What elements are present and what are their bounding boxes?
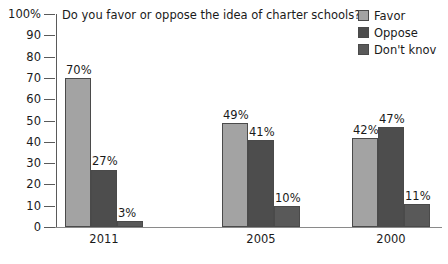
bar-value-label: 27% [92, 155, 118, 167]
bar-value-label: 41% [249, 126, 275, 138]
bar-value-label: 47% [379, 113, 405, 125]
bar [222, 123, 248, 227]
bar [378, 127, 404, 227]
legend-item-oppose: Oppose [358, 24, 448, 41]
bar-value-label: 10% [275, 192, 301, 204]
y-axis-label: 20 [0, 178, 41, 190]
x-axis-label: 2005 [212, 232, 310, 246]
y-axis-label: 70 [0, 72, 41, 84]
bar-chart: Do you favor or oppose the idea of chart… [0, 0, 448, 264]
legend-label-oppose: Oppose [374, 26, 418, 40]
x-axis-label: 2011 [55, 232, 153, 246]
bar [65, 78, 91, 227]
y-axis-tick [44, 227, 55, 228]
y-axis-label: 10 [0, 200, 41, 212]
bar-value-label: 49% [223, 109, 249, 121]
y-axis-label: 90 [0, 29, 41, 41]
y-axis-tick [44, 35, 55, 36]
y-axis-label: 80 [0, 51, 41, 63]
y-axis-tick [44, 206, 55, 207]
legend-swatch-dont-know [358, 44, 369, 55]
bar [117, 221, 143, 227]
y-axis-tick [44, 163, 55, 164]
y-axis-tick [44, 14, 55, 15]
y-axis-label: 40 [0, 136, 41, 148]
y-axis-label: 30 [0, 157, 41, 169]
x-axis-label: 2000 [342, 232, 440, 246]
y-axis-tick [44, 99, 55, 100]
bar-value-label: 70% [66, 64, 92, 76]
legend-item-dont-know: Don't knov [358, 41, 448, 58]
bar [352, 138, 378, 227]
legend-swatch-favor [358, 10, 369, 21]
x-axis-line [44, 227, 442, 228]
bar [248, 140, 274, 227]
y-axis-label: 0 [0, 221, 41, 233]
y-axis-line [56, 14, 57, 228]
chart-legend: Favor Oppose Don't knov [358, 7, 448, 58]
bar-value-label: 11% [405, 190, 431, 202]
y-axis-tick [44, 184, 55, 185]
legend-label-favor: Favor [374, 9, 405, 23]
legend-swatch-oppose [358, 27, 369, 38]
y-axis-tick [44, 142, 55, 143]
bar [91, 170, 117, 228]
y-axis-tick [44, 78, 55, 79]
chart-title: Do you favor or oppose the idea of chart… [62, 8, 360, 22]
bar [274, 206, 300, 227]
legend-item-favor: Favor [358, 7, 448, 24]
bar-value-label: 42% [353, 124, 379, 136]
bar-value-label: 3% [118, 207, 136, 219]
y-axis-label: 100% [0, 8, 41, 20]
y-axis-tick [44, 57, 55, 58]
y-axis-label: 50 [0, 115, 41, 127]
y-axis-label: 60 [0, 93, 41, 105]
y-axis-tick [44, 121, 55, 122]
bar [404, 204, 430, 227]
legend-label-dont-know: Don't knov [374, 43, 436, 57]
